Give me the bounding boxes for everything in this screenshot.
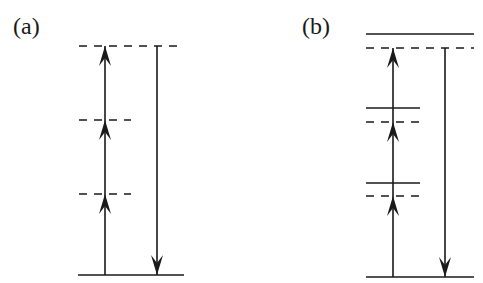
panel-a [78, 46, 184, 275]
panel-b [366, 34, 474, 277]
diagram-canvas [0, 0, 483, 283]
energy-level-diagram: (a) (b) [0, 0, 483, 283]
